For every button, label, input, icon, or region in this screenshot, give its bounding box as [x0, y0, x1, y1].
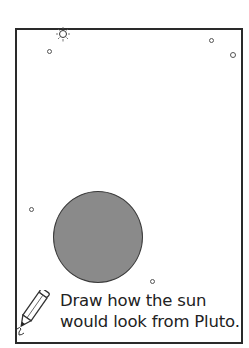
sun-icon — [55, 26, 71, 42]
instruction-line-1: Draw how the sun — [60, 290, 240, 311]
star-dot — [209, 38, 214, 43]
star-dot — [150, 279, 155, 284]
sun-drawing — [53, 191, 143, 283]
instruction-text: Draw how the sun would look from Pluto. — [60, 290, 240, 332]
instruction-line-2: would look from Pluto. — [60, 311, 240, 332]
star-dot — [29, 207, 34, 212]
star-dot — [230, 52, 236, 58]
pencil-icon — [14, 290, 64, 338]
star-dot — [47, 49, 52, 54]
